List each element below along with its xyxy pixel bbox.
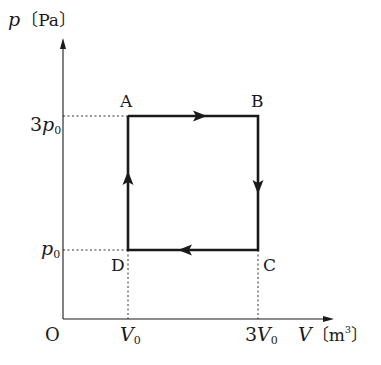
- x-tick-V0: V0: [120, 323, 141, 347]
- cycle-path: [128, 116, 258, 250]
- x-tick-3V0: 3V0: [245, 323, 278, 347]
- y-tick-3p0: 3p0: [30, 113, 61, 137]
- y-axis-arrowhead-icon: [60, 38, 66, 49]
- origin-label: O: [45, 324, 60, 345]
- y-axis-title: p〔Pa〕: [8, 8, 76, 30]
- point-label-a: A: [119, 91, 133, 111]
- x-axis-title: V〔m3〕: [298, 323, 368, 345]
- axes: [63, 44, 328, 319]
- point-label-b: B: [251, 91, 264, 111]
- y-tick-p0: p0: [41, 237, 60, 261]
- pv-diagram: A B C D p〔Pa〕 3p0 p0 O V0 3V0 V〔m3〕: [0, 0, 381, 365]
- x-axis-arrowhead-icon: [323, 316, 334, 322]
- point-label-c: C: [263, 255, 276, 275]
- guide-lines: [63, 116, 258, 319]
- point-label-d: D: [111, 255, 125, 275]
